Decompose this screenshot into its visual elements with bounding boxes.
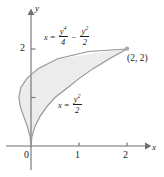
x-axis-arrow (145, 143, 152, 150)
lower-eq-term1-denominator: 2 (74, 106, 80, 115)
upper-eq-term2: y2 2 (80, 27, 89, 47)
intersection-point-marker (125, 46, 129, 50)
lower-eq-term1-numerator: y2 (73, 95, 82, 104)
lower-eq-equals: = (64, 101, 70, 110)
upper-eq-term1-numerator: y4 (59, 27, 68, 36)
intersection-point-label: (2, 2) (127, 54, 148, 64)
y-tick-label-2: 2 (20, 43, 25, 53)
x-tick-label-2: 2 (123, 150, 128, 160)
x-tick-label-0: 0 (24, 150, 29, 160)
upper-eq-term2-numerator: y2 (80, 27, 89, 36)
upper-eq-operator: − (72, 33, 77, 42)
upper-eq-term1-denominator: 4 (60, 38, 66, 47)
upper-curve-equation-label: x = y4 4 − y2 2 (44, 27, 90, 47)
lower-eq-term1-exponent: 2 (77, 93, 80, 99)
math-figure: y x 0 1 2 2 x = y4 4 − y2 2 x = y2 2 (2,… (0, 0, 164, 177)
x-axis-label: x (152, 143, 156, 152)
y-axis-arrow (28, 9, 35, 16)
upper-eq-term2-exponent: 2 (85, 25, 88, 31)
y-axis-label: y (35, 4, 39, 13)
upper-eq-term1-exponent: 4 (63, 25, 66, 31)
upper-eq-lhs: x (44, 33, 48, 42)
upper-eq-term2-denominator: 2 (82, 38, 88, 47)
x-tick-label-1: 1 (75, 150, 80, 160)
lower-eq-term1: y2 2 (73, 95, 82, 115)
lower-eq-lhs: x (58, 101, 62, 110)
upper-eq-equals: = (50, 33, 56, 42)
upper-eq-term1: y4 4 (59, 27, 68, 47)
lower-curve-equation-label: x = y2 2 (58, 95, 83, 115)
